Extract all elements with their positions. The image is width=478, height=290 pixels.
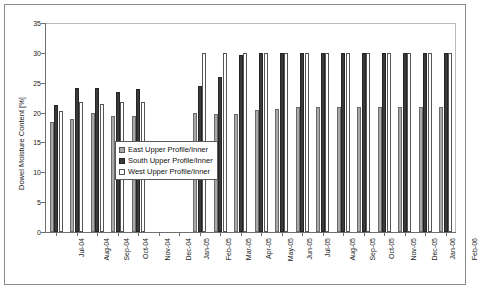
x-tick-mark — [261, 232, 262, 236]
bar-south — [259, 53, 263, 232]
bar-cluster — [234, 23, 247, 232]
y-tick-label: 35 — [19, 20, 41, 27]
x-tick-mark — [323, 232, 324, 236]
x-tick-mark — [405, 232, 406, 236]
bar-west — [346, 53, 350, 232]
bar-cluster — [316, 23, 329, 232]
bar-cluster — [70, 23, 83, 232]
x-tick-label: Jul-05 — [324, 238, 331, 257]
bar-west — [387, 53, 391, 232]
bar-east — [398, 107, 402, 232]
x-tick-label: Jul-04 — [78, 238, 85, 257]
bar-cluster — [357, 23, 370, 232]
bar-cluster — [378, 23, 391, 232]
x-tick-label: Jan-05 — [204, 238, 211, 259]
x-tick-label: Jun-05 — [306, 238, 313, 259]
bar-west — [100, 104, 104, 232]
bar-east — [50, 122, 54, 232]
y-tick-mark — [41, 53, 45, 54]
y-tick-label: 0 — [19, 229, 41, 236]
bar-east — [296, 107, 300, 232]
bar-west — [243, 53, 247, 232]
x-tick-label: Nov-04 — [164, 238, 171, 261]
x-tick-mark — [241, 232, 242, 236]
bar-east — [419, 107, 423, 232]
bar-cluster — [275, 23, 288, 232]
bar-series-container — [46, 23, 456, 232]
x-tick-label: Oct-04 — [142, 238, 149, 259]
x-tick-mark — [302, 232, 303, 236]
x-tick-mark — [446, 232, 447, 236]
x-tick-label: Feb-05 — [225, 238, 232, 260]
bar-west — [325, 53, 329, 232]
legend-swatch-south-icon — [119, 158, 125, 164]
x-tick-label: Nov-05 — [410, 238, 417, 261]
bar-cluster — [255, 23, 268, 232]
x-tick-label: Dec-04 — [184, 238, 191, 261]
y-tick-label: 5 — [19, 199, 41, 206]
chart-legend: East Upper Profile/Inner South Upper Pro… — [115, 141, 218, 180]
x-tick-mark — [425, 232, 426, 236]
x-tick-mark — [343, 232, 344, 236]
bar-west — [305, 53, 309, 232]
bar-west — [428, 53, 432, 232]
legend-label-south: South Upper Profile/Inner — [128, 156, 213, 165]
x-tick-mark — [220, 232, 221, 236]
y-tick-mark — [41, 113, 45, 114]
x-tick-mark — [282, 232, 283, 236]
y-tick-mark — [41, 83, 45, 84]
chart-frame: Dowel Moisture Content [%] 0510152025303… — [4, 4, 466, 285]
y-tick-mark — [41, 142, 45, 143]
x-tick-label: Feb-06 — [471, 238, 478, 260]
bar-cluster — [193, 23, 206, 232]
x-tick-label: Mar-05 — [245, 238, 252, 260]
y-tick-label: 25 — [19, 79, 41, 86]
bar-cluster — [152, 23, 165, 232]
bar-south — [280, 53, 284, 232]
legend-item-south: South Upper Profile/Inner — [119, 155, 213, 166]
bar-south — [218, 77, 222, 232]
bar-south — [403, 53, 407, 232]
bar-cluster — [173, 23, 186, 232]
y-tick-mark — [41, 232, 45, 233]
bar-cluster — [91, 23, 104, 232]
x-tick-mark — [159, 232, 160, 236]
x-tick-mark — [364, 232, 365, 236]
bar-west — [407, 53, 411, 232]
x-tick-mark — [97, 232, 98, 236]
bar-cluster — [398, 23, 411, 232]
y-tick-label: 20 — [19, 109, 41, 116]
bar-west — [448, 53, 452, 232]
bar-south — [341, 53, 345, 232]
x-tick-mark — [56, 232, 57, 236]
x-tick-label: Aug-05 — [348, 238, 355, 261]
x-tick-mark — [138, 232, 139, 236]
x-tick-label: Aug-04 — [102, 238, 109, 261]
bar-east — [91, 113, 95, 232]
x-tick-label: Sep-04 — [123, 238, 130, 261]
legend-label-west: West Upper Profile/Inner — [128, 167, 210, 176]
bar-east — [234, 114, 238, 232]
y-tick-label: 10 — [19, 169, 41, 176]
y-tick-label: 30 — [19, 49, 41, 56]
legend-item-west: West Upper Profile/Inner — [119, 166, 213, 177]
bar-south — [95, 88, 99, 232]
x-tick-mark — [77, 232, 78, 236]
bar-south — [362, 53, 366, 232]
bar-east — [337, 107, 341, 232]
bar-south — [382, 53, 386, 232]
x-tick-mark — [384, 232, 385, 236]
bar-east — [439, 107, 443, 232]
x-tick-mark — [179, 232, 180, 236]
bar-east — [316, 107, 320, 232]
y-tick-mark — [41, 172, 45, 173]
bar-cluster — [132, 23, 145, 232]
x-tick-label: Dec-05 — [430, 238, 437, 261]
x-tick-label: May-05 — [288, 238, 295, 261]
bar-east — [275, 109, 279, 232]
bar-east — [378, 107, 382, 232]
bar-west — [264, 53, 268, 232]
bar-west — [366, 53, 370, 232]
legend-swatch-east-icon — [119, 147, 125, 153]
x-tick-mark — [200, 232, 201, 236]
